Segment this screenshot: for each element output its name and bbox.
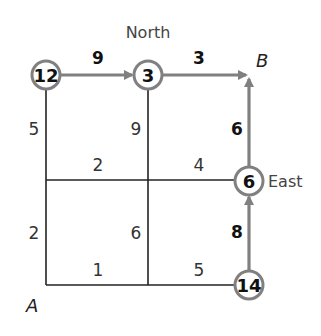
node-14-value: 14 <box>236 275 261 296</box>
edge-weight-middle-upper: 9 <box>131 119 142 139</box>
edge-weight-middle-lower: 6 <box>131 223 142 243</box>
node-12-value: 12 <box>33 65 58 86</box>
edge-weight-left-lower: 2 <box>29 223 40 243</box>
node-6-value: 6 <box>243 171 256 192</box>
edge-weight-bottom-left: 1 <box>93 260 104 280</box>
node-3-value: 3 <box>142 65 155 86</box>
node-6: 6 <box>235 167 263 195</box>
edge-weight-mid-row-left: 2 <box>93 155 104 175</box>
corner-a-label: A <box>25 295 38 316</box>
edge-weight-left-upper: 5 <box>29 119 40 139</box>
edge-weight-right-upper: 6 <box>231 119 243 139</box>
edge-weight-right-lower: 8 <box>231 222 243 242</box>
node-12: 12 <box>32 61 60 89</box>
node-14: 14 <box>235 271 263 299</box>
north-label: North <box>126 23 171 42</box>
edge-weight-top-right: 3 <box>193 48 205 68</box>
grid-path-diagram: 12 3 6 14 North East B A 9 3 6 8 5 2 9 6… <box>0 0 321 336</box>
edge-weight-mid-row-right: 4 <box>194 155 205 175</box>
edge-weight-top-left: 9 <box>92 48 104 68</box>
corner-b-label: B <box>256 50 268 71</box>
east-label: East <box>268 172 303 191</box>
node-3: 3 <box>134 61 162 89</box>
edge-weight-bottom-right: 5 <box>194 260 205 280</box>
path-arrows <box>60 75 249 271</box>
